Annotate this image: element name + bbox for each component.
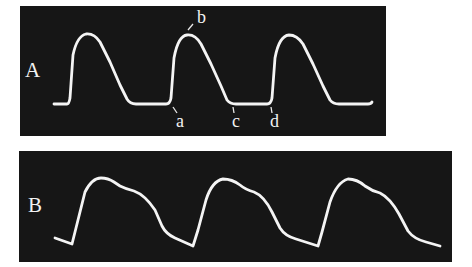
waveform-overlay (0, 0, 472, 267)
panel-b-label: B (28, 195, 42, 216)
point-label-d: d (270, 112, 279, 130)
point-label-c: c (232, 112, 240, 130)
trace-b (55, 178, 440, 246)
point-label-a: a (176, 112, 184, 130)
point-label-b: b (197, 8, 206, 26)
trace-a (54, 34, 372, 104)
panel-a-label: A (25, 60, 40, 81)
tick-b (188, 24, 193, 30)
